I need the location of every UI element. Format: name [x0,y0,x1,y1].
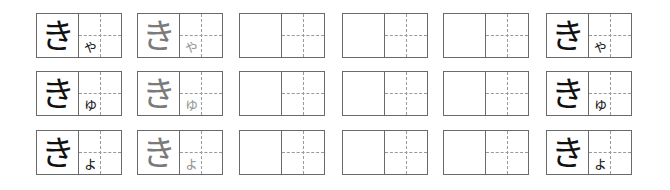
writing-box-blank[interactable] [443,71,529,116]
small-character-cell[interactable]: ゃ [180,14,222,57]
horizontal-guide-line [385,35,427,36]
writing-box-blank[interactable] [239,71,325,116]
main-character-cell[interactable] [444,14,486,57]
main-character: き [41,136,75,170]
trace-small-character: ゃ [182,36,200,56]
main-character-cell: き [37,131,79,174]
main-character-cell: き [547,14,589,57]
writing-box-trace[interactable]: き ゃ [137,13,223,58]
trace-character: き [142,136,176,170]
writing-box-blank[interactable] [239,130,325,175]
small-character-cell[interactable]: ょ [180,131,222,174]
trace-small-character: ょ [182,153,200,173]
small-character: ゅ [591,94,609,114]
main-character: き [551,77,585,111]
small-character-cell[interactable] [486,72,528,115]
writing-box-blank[interactable] [342,13,428,58]
main-character-cell: き [37,72,79,115]
small-character-cell[interactable] [282,131,324,174]
main-character-cell[interactable] [343,131,385,174]
main-character-cell[interactable] [343,72,385,115]
writing-box-blank[interactable] [239,13,325,58]
practice-row-kyo: き ょ き ょ [36,130,636,176]
main-character-cell[interactable] [343,14,385,57]
small-character-cell[interactable] [486,131,528,174]
small-character-cell[interactable] [385,14,427,57]
main-character: き [551,136,585,170]
horizontal-guide-line [385,93,427,94]
small-character-cell[interactable] [282,72,324,115]
main-character-cell[interactable]: き [138,72,180,115]
trace-character: き [142,19,176,53]
small-character: ゃ [81,36,99,56]
main-character: き [41,19,75,53]
writing-box-model: き ゃ [36,13,122,58]
main-character-cell[interactable] [444,131,486,174]
main-character-cell[interactable]: き [138,14,180,57]
small-character-cell[interactable] [486,14,528,57]
main-character-cell: き [547,72,589,115]
writing-box-blank[interactable] [443,130,529,175]
practice-row-kya: き ゃ き ゃ [36,13,636,59]
small-character-cell: ょ [589,131,631,174]
writing-box-blank[interactable] [443,13,529,58]
small-character-cell: ゃ [589,14,631,57]
horizontal-guide-line [282,152,324,153]
small-character-cell[interactable] [385,131,427,174]
small-character-cell[interactable] [282,14,324,57]
main-character-cell: き [37,14,79,57]
trace-character: き [142,77,176,111]
small-character-cell: ゅ [589,72,631,115]
small-character-cell: ゃ [79,14,121,57]
practice-row-kyu: き ゅ き ゅ [36,71,636,117]
main-character-cell[interactable] [240,14,282,57]
main-character-cell[interactable] [444,72,486,115]
horizontal-guide-line [282,35,324,36]
writing-box-model: き ゅ [36,71,122,116]
writing-box-model: き ょ [546,130,632,175]
small-character-cell: ょ [79,131,121,174]
main-character: き [41,77,75,111]
small-character-cell[interactable]: ゅ [180,72,222,115]
writing-box-blank[interactable] [342,71,428,116]
main-character: き [551,19,585,53]
writing-box-model: き ゃ [546,13,632,58]
horizontal-guide-line [385,152,427,153]
main-character-cell[interactable] [240,131,282,174]
small-character: ゅ [81,94,99,114]
horizontal-guide-line [486,93,528,94]
trace-small-character: ゅ [182,94,200,114]
kana-practice-worksheet: き ゃ き ゃ [0,0,670,190]
small-character-cell[interactable] [385,72,427,115]
horizontal-guide-line [486,152,528,153]
writing-box-model: き ょ [36,130,122,175]
main-character-cell[interactable]: き [138,131,180,174]
small-character: ょ [591,153,609,173]
writing-box-trace[interactable]: き ゅ [137,71,223,116]
main-character-cell: き [547,131,589,174]
writing-box-trace[interactable]: き ょ [137,130,223,175]
horizontal-guide-line [282,93,324,94]
small-character: ゃ [591,36,609,56]
writing-box-blank[interactable] [342,130,428,175]
horizontal-guide-line [486,35,528,36]
small-character-cell: ゅ [79,72,121,115]
small-character: ょ [81,153,99,173]
writing-box-model: き ゅ [546,71,632,116]
main-character-cell[interactable] [240,72,282,115]
